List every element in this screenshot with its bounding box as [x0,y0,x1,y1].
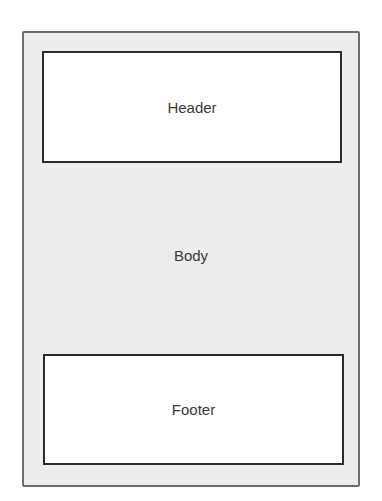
page-layout-frame: Header Body Footer [22,31,360,487]
header-label: Header [167,99,216,116]
body-label: Body [24,247,358,264]
footer-region: Footer [43,354,344,465]
header-region: Header [42,51,342,163]
footer-label: Footer [172,401,215,418]
